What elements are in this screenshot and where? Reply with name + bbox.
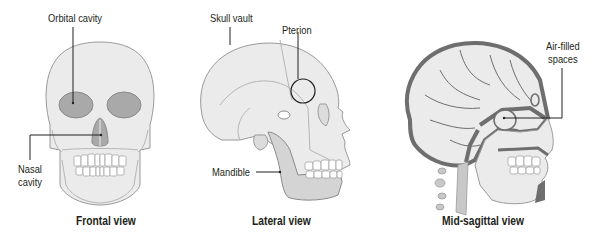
frontal-view-panel: Orbital cavity Nasal cavity Frontal view xyxy=(0,0,200,242)
air-filled-spaces-label-line2: spaces xyxy=(548,53,578,65)
frontal-view-caption: Frontal view xyxy=(76,214,136,228)
orbital-cavity-label: Orbital cavity xyxy=(48,12,102,24)
skull-vault-label: Skull vault xyxy=(210,12,253,24)
pterion-label: Pterion xyxy=(282,24,312,36)
nasal-cavity-label-line1: Nasal xyxy=(18,163,42,175)
air-filled-spaces-label-line1: Air-filled xyxy=(546,40,580,52)
nasal-cavity-label-line2: cavity xyxy=(18,176,42,188)
lateral-view-panel: Skull vault Pterion Mandible Lateral vie… xyxy=(180,0,400,242)
lateral-skull-illustration xyxy=(180,0,400,242)
midsagittal-view-panel: Air-filled spaces Mid-sagittal view xyxy=(380,0,606,242)
midsagittal-skull-illustration xyxy=(380,0,606,242)
lateral-view-caption: Lateral view xyxy=(252,214,311,228)
mandible-label: Mandible xyxy=(212,166,250,178)
midsagittal-view-caption: Mid-sagittal view xyxy=(442,214,524,228)
frontal-skull-illustration xyxy=(0,0,200,242)
